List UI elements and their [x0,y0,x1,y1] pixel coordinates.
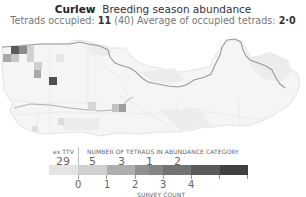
tick-4: 4 [188,179,194,190]
category-header: NUMBER OF TETRADS IN ABUNDANCE CATEGORY [87,148,239,155]
tick-0: 0 [75,179,81,190]
average-label: Average of occupied tetrads: [137,15,276,26]
tick-2: 2 [132,179,138,190]
map-description: Breeding season abundance [102,3,251,15]
tetrad-square [34,70,41,78]
tetrad-square [11,46,19,54]
swatch-2-3a [135,165,149,175]
chart-title: Curlew Breeding season abundance [0,3,306,15]
swatch-ex-ttv [49,165,78,175]
occupied-count: 11 [98,15,111,26]
tetrad-square [119,104,126,112]
tetrad-square [49,77,57,85]
tick-3: 3 [160,179,166,190]
chart-subtitle: Tetrads occupied: 11 (40) Average of occ… [0,15,306,26]
tetrad-square [112,104,119,112]
species-name: Curlew [55,3,96,15]
abundance-legend: ex TTV NUMBER OF TETRADS IN ABUNDANCE CA… [0,140,306,197]
swatch-0-1 [78,165,107,175]
tetrad-square [58,118,64,125]
tetrad-square [11,54,19,62]
county-outline [2,40,300,136]
swatch-3-4 [163,165,191,175]
occupied-total: (40) [114,15,134,26]
tetrad-square [88,102,96,111]
swatch-4-5 [191,165,220,175]
distribution-map [0,33,306,143]
tetrad-square [27,46,34,62]
swatch-1-2 [107,165,135,175]
tetrad-square [19,46,27,54]
axis-label: SURVEY COUNT [137,191,185,197]
swatch-5-plus [220,165,248,175]
tetrad-square [56,54,64,62]
tetrad-square [34,62,42,70]
ex-ttv-label: ex TTV [53,148,74,155]
average-value: 2·0 [279,15,296,26]
tetrad-square [3,54,11,62]
occupied-label: Tetrads occupied: [10,15,94,26]
color-scale-bar [49,165,248,175]
tetrad-square [32,126,38,132]
swatch-2-3b [149,165,163,175]
tick-1: 1 [104,179,110,190]
